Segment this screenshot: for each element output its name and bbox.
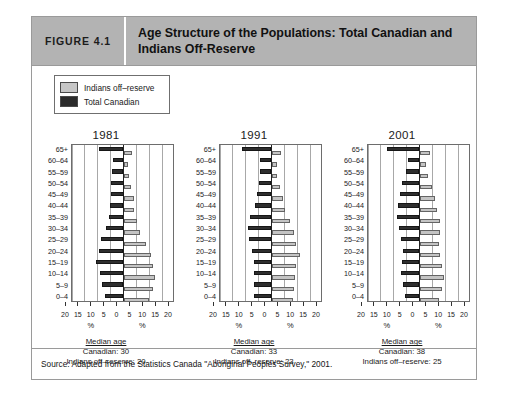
age-label: 0–4 <box>334 291 364 302</box>
x-tick-label: 5 <box>102 311 106 318</box>
age-label: 65+ <box>186 144 216 155</box>
chart-panel-year-2001: 2001 <box>328 129 476 141</box>
bar-off-reserve <box>124 264 153 268</box>
bar-off-reserve <box>124 230 141 234</box>
bar-total-canadian <box>406 169 420 173</box>
bar-total-canadian <box>101 237 124 241</box>
bar-off-reserve <box>124 162 129 166</box>
x-tick <box>412 302 413 306</box>
bar-off-reserve <box>272 208 286 212</box>
bar-off-reserve <box>272 253 300 257</box>
bar-off-reserve <box>420 219 441 223</box>
x-tick-label: 15 <box>222 311 230 318</box>
bar-off-reserve <box>420 287 442 291</box>
x-tick <box>264 302 265 306</box>
age-axis-labels: 65+60–6455–5950–5445–4940–4435–3930–3425… <box>38 144 71 302</box>
bar-total-canadian <box>257 192 271 196</box>
age-axis-labels: 65+60–6455–5950–5445–4940–4435–3930–3425… <box>186 144 219 302</box>
bar-total-canadian <box>248 226 272 230</box>
bar-group <box>72 192 173 201</box>
bar-total-canadian <box>111 192 124 196</box>
bar-total-canadian <box>260 158 271 162</box>
bar-off-reserve <box>272 174 278 178</box>
bar-group <box>72 260 173 269</box>
bar-off-reserve <box>124 219 138 223</box>
bar-total-canadian <box>405 294 419 298</box>
figure-number-label: FIGURE 4.1 <box>32 17 126 65</box>
x-tick-label: 15 <box>370 311 378 318</box>
bar-off-reserve <box>420 264 443 268</box>
bar-group <box>368 169 469 178</box>
percent-unit-row: %% <box>361 321 464 332</box>
bar-group <box>72 249 173 258</box>
x-tick <box>155 302 156 306</box>
age-label: 55–59 <box>38 167 68 178</box>
bar-off-reserve <box>420 151 431 155</box>
bar-off-reserve <box>420 162 426 166</box>
bar-group <box>72 237 173 246</box>
x-tick-label: 20 <box>209 311 217 318</box>
age-label: 15–19 <box>334 257 364 268</box>
bar-off-reserve <box>420 253 441 257</box>
bar-off-reserve <box>124 185 131 189</box>
x-tick-label: 15 <box>299 311 307 318</box>
age-label: 10–14 <box>334 268 364 279</box>
x-tick-label: 5 <box>250 311 254 318</box>
chart-panel-year-1991: 1991 <box>180 129 328 141</box>
plot-area-2001 <box>367 144 470 302</box>
x-tick <box>361 302 362 306</box>
x-tick <box>103 302 104 306</box>
age-label: 0–4 <box>186 291 216 302</box>
bar-total-canadian <box>254 260 272 264</box>
x-tick <box>129 302 130 306</box>
bar-total-canadian <box>250 215 272 219</box>
bar-total-canadian <box>403 282 419 286</box>
chart-panel-year-1981: 1981 <box>32 129 180 141</box>
bar-total-canadian <box>401 237 419 241</box>
x-tick <box>213 302 214 306</box>
x-tick <box>464 302 465 306</box>
plot-row: 65+60–6455–5950–5445–4940–4435–3930–3425… <box>32 144 180 302</box>
source-note: Source: Adapted from the Statistics Cana… <box>32 348 476 379</box>
x-tick <box>251 302 252 306</box>
median-age-heading: Median age <box>32 337 180 347</box>
bar-group <box>220 237 321 246</box>
legend-swatch-icon-total-canadian <box>60 96 78 107</box>
x-tick <box>90 302 91 306</box>
bar-group <box>72 282 173 291</box>
x-tick-label: 10 <box>235 311 243 318</box>
percent-unit-left: % <box>87 321 94 330</box>
x-tick-label: 20 <box>357 311 365 318</box>
bar-group <box>368 203 469 212</box>
x-tick-label: 20 <box>164 311 172 318</box>
bar-group <box>72 158 173 167</box>
x-tick-label: 15 <box>151 311 159 318</box>
x-tick <box>77 302 78 306</box>
x-tick-label: 20 <box>460 311 468 318</box>
x-tick <box>425 302 426 306</box>
bar-group <box>368 215 469 224</box>
age-label: 20–24 <box>334 246 364 257</box>
bar-group <box>368 226 469 235</box>
x-tick <box>399 302 400 306</box>
bar-off-reserve <box>272 185 280 189</box>
bar-off-reserve <box>420 242 440 246</box>
bar-total-canadian <box>102 282 123 286</box>
age-label: 45–49 <box>334 189 364 200</box>
x-tick <box>65 302 66 306</box>
bar-group <box>368 147 469 156</box>
bar-total-canadian <box>254 294 272 298</box>
age-label: 60–64 <box>334 155 364 166</box>
percent-unit-row: %% <box>213 321 316 332</box>
legend-item-off-reserve: Indians off–reserve <box>60 81 164 94</box>
x-tick-label: 0 <box>115 311 119 318</box>
x-axis-ticks <box>65 302 168 311</box>
bar-off-reserve <box>272 275 296 279</box>
figure-container: FIGURE 4.1 Age Structure of the Populati… <box>31 16 477 380</box>
bar-group <box>220 181 321 190</box>
x-axis-labels: 201510505101520 <box>205 311 324 321</box>
bar-group <box>72 169 173 178</box>
age-label: 5–9 <box>334 280 364 291</box>
age-label: 45–49 <box>186 189 216 200</box>
bar-off-reserve <box>272 287 294 291</box>
